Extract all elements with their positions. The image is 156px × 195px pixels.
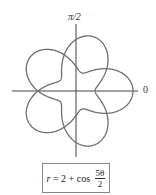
axis-label-pi-over-2: π/2	[68, 11, 81, 22]
fraction-denominator: 2	[97, 179, 104, 189]
polar-plot	[0, 0, 156, 160]
equation-fraction: 5θ 2	[95, 168, 106, 189]
equation-box: r = 2 + cos 5θ 2	[42, 163, 110, 193]
equation-mid: = 2 + cos	[50, 173, 92, 184]
axis-label-zero: 0	[143, 84, 148, 95]
fraction-numerator: 5θ	[95, 168, 106, 179]
